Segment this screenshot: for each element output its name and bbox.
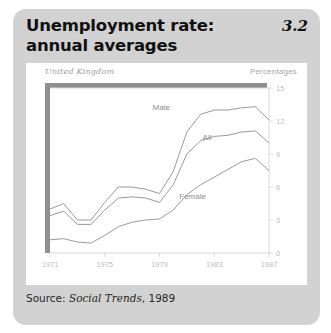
series-label-female: Female — [179, 192, 206, 201]
series-lines — [50, 107, 269, 243]
y-axis-ticks: 15129630 — [269, 84, 284, 258]
y-axis-tick-label: 12 — [276, 117, 284, 126]
y-axis-tick-label: 15 — [276, 84, 284, 93]
chart-card-header: United Kingdom Percentages — [26, 63, 307, 83]
chart-units-label: Percentages — [250, 67, 297, 76]
line-chart-svg: 15129630 19711975197919831987 MaleAllFem… — [26, 81, 307, 285]
x-axis-tick-label: 1971 — [42, 260, 59, 269]
x-axis-tick-label: 1983 — [206, 260, 223, 269]
source-caption: Source: Social Trends, 1989 — [26, 292, 175, 304]
y-axis-tick-label: 9 — [276, 150, 280, 159]
series-labels: MaleAllFemale — [153, 103, 212, 201]
source-work-title: Social Trends — [69, 292, 142, 304]
series-line-male — [50, 107, 269, 220]
chart-card: United Kingdom Percentages 15129630 1971… — [26, 63, 307, 285]
x-axis-tick-label: 1987 — [261, 260, 278, 269]
frame-top-shadow — [45, 83, 267, 88]
series-label-all: All — [203, 133, 212, 142]
page-title: Unemployment rate: annual averages — [26, 16, 241, 56]
figure-header: Unemployment rate: annual averages 3.2 — [26, 16, 308, 63]
axis-lines — [50, 88, 269, 253]
x-axis-tick-label: 1975 — [96, 260, 113, 269]
series-label-male: Male — [153, 103, 171, 112]
plot-area: 15129630 19711975197919831987 MaleAllFem… — [26, 81, 307, 285]
x-axis-ticks: 19711975197919831987 — [42, 253, 278, 269]
source-suffix: , 1989 — [142, 292, 175, 304]
figure-root: Unemployment rate: annual averages 3.2 U… — [0, 0, 331, 333]
y-axis-tick-label: 6 — [276, 183, 280, 192]
y-axis-tick-label: 3 — [276, 216, 280, 225]
figure-number: 3.2 — [282, 17, 308, 35]
y-axis-tick-label: 0 — [276, 249, 280, 258]
frame-left-shadow — [45, 83, 50, 253]
series-line-female — [50, 158, 269, 243]
source-prefix: Source: — [26, 292, 69, 304]
x-axis-tick-label: 1979 — [151, 260, 168, 269]
series-line-all — [50, 131, 269, 225]
chart-region-label: United Kingdom — [45, 67, 114, 76]
